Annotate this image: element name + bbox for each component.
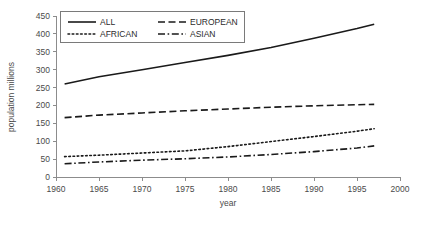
x-axis-title: year xyxy=(220,198,237,208)
y-tick-label: 400 xyxy=(36,29,50,39)
y-tick-label: 300 xyxy=(36,65,50,75)
y-axis-title: population millions xyxy=(6,62,16,132)
y-tick-label: 250 xyxy=(36,83,50,93)
y-tick-label: 100 xyxy=(36,136,50,146)
x-tick-label: 1985 xyxy=(262,184,281,194)
x-tick-label: 1990 xyxy=(305,184,324,194)
x-tick-label: 1965 xyxy=(90,184,109,194)
x-tick-label: 1995 xyxy=(348,184,367,194)
y-tick-label: 150 xyxy=(36,118,50,128)
population-line-chart: 050100150200250300350400450 196019651970… xyxy=(0,0,422,227)
x-tick-label: 1970 xyxy=(133,184,152,194)
legend-label-asian: ASIAN xyxy=(190,29,216,39)
legend-label-european: EUROPEAN xyxy=(190,17,238,27)
y-tick-label: 0 xyxy=(45,172,50,182)
x-tick-label: 1960 xyxy=(47,184,66,194)
legend-label-all: ALL xyxy=(100,17,115,27)
x-axis-tick-labels: 196019651970197519801985199019952000 xyxy=(47,184,410,194)
y-tick-label: 200 xyxy=(36,100,50,110)
chart-container: 050100150200250300350400450 196019651970… xyxy=(0,0,422,227)
y-tick-label: 50 xyxy=(41,154,51,164)
x-tick-label: 2000 xyxy=(391,184,410,194)
x-tick-label: 1975 xyxy=(176,184,195,194)
y-tick-label: 350 xyxy=(36,47,50,57)
x-tick-label: 1980 xyxy=(219,184,238,194)
y-tick-label: 450 xyxy=(36,11,50,21)
legend-label-african: AFRICAN xyxy=(100,29,137,39)
chart-legend: ALLEUROPEANAFRICANASIAN xyxy=(60,11,244,42)
